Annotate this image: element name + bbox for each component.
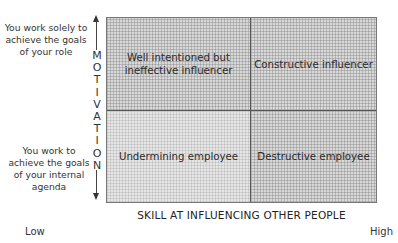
quadrant-label: Undermining employee — [119, 150, 238, 163]
quadrant-top-left: Well intentioned but ineffective influen… — [107, 18, 251, 111]
motivation-axis-title: M O T I V A T I O N — [90, 50, 104, 172]
axis-letter: N — [90, 160, 104, 172]
arrow-down-icon — [93, 193, 99, 200]
axis-letter: I — [90, 87, 104, 99]
top-motivation-label: You work solely to achieve the goals of … — [0, 22, 92, 58]
axis-line-up — [96, 20, 97, 50]
axis-letter: T — [90, 74, 104, 86]
axis-low-label: Low — [25, 226, 45, 237]
quadrant-label: Destructive employee — [257, 150, 369, 163]
quadrant-label: Well intentioned but ineffective influen… — [124, 51, 234, 77]
axis-high-label: High — [370, 226, 393, 237]
bottom-motivation-label: You work to achieve the goals of your in… — [4, 145, 94, 193]
quadrant-label: Constructive influencer — [254, 58, 373, 71]
quadrant-grid: Well intentioned but ineffective influen… — [106, 17, 377, 203]
axis-letter: O — [90, 148, 104, 160]
axis-letter: I — [90, 135, 104, 147]
skill-axis-title: SKILL AT INFLUENCING OTHER PEOPLE — [106, 209, 377, 221]
quadrant-bottom-left: Undermining employee — [107, 111, 251, 202]
quadrant-top-right: Constructive influencer — [251, 18, 376, 111]
quadrant-bottom-right: Destructive employee — [251, 111, 376, 202]
